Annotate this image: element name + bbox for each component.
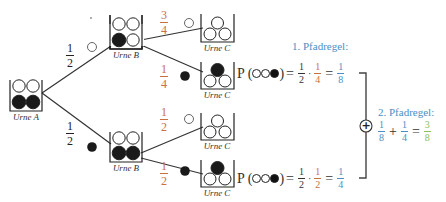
rule2-formula: 1 8 + 1 4 = 3 8: [376, 120, 433, 143]
prob-b-bottom-to-c4: 1 2: [160, 160, 168, 187]
urn-a-label: Urne A: [13, 112, 39, 122]
seq-black-ball-icon: [270, 69, 279, 78]
seq-white-ball-icon: [252, 174, 261, 183]
urn-c4-label: Urne C: [204, 188, 231, 198]
formula-top-f1: 1 2: [298, 62, 305, 85]
prob-a-to-b-top: 1 2: [66, 42, 74, 69]
urn-b-top-label: Urne B: [113, 50, 139, 60]
seq-white-ball-icon: [252, 69, 261, 78]
formula-bottom-result: 1 4: [337, 167, 344, 190]
formula-top-f2: 1 4: [314, 62, 321, 85]
rule2-title: 2. Pfadregel:: [378, 106, 434, 118]
prob-b-bottom-to-c3: 1 2: [160, 106, 168, 133]
urn-b-top-row-two: [0, 0, 446, 202]
formula-top-result: 1 8: [337, 62, 344, 85]
seq-black-ball-icon: [270, 174, 279, 183]
formula-bottom: P ( ) = 1 2 · 1 2 = 1 4: [237, 167, 346, 190]
seq-white-ball-icon: [261, 69, 270, 78]
urn-b-bottom-label: Urne B: [113, 163, 139, 173]
formula-bottom-f1: 1 2: [298, 167, 305, 190]
rule1-title: 1. Pfadregel:: [292, 40, 348, 52]
prob-b-top-to-c2: 1 4: [160, 63, 168, 90]
formula-top: P ( ) = 1 2 · 1 4 = 1 8: [237, 62, 346, 85]
urn-c3-label: Urne C: [204, 141, 231, 151]
formula-bottom-f2: 1 2: [314, 167, 321, 190]
seq-white-ball-icon: [261, 174, 270, 183]
rule2-a: 1 8: [378, 120, 385, 143]
urn-c1-label: Urne C: [204, 43, 231, 53]
urn-c2-label: Urne C: [204, 90, 231, 100]
sum-plus-icon: +: [360, 119, 372, 133]
prob-b-top-to-c1: 3 4: [160, 9, 168, 36]
prob-a-to-b-bottom: 1 2: [66, 120, 74, 147]
rule2-b: 1 4: [401, 120, 408, 143]
rule2-result: 3 8: [424, 120, 431, 143]
